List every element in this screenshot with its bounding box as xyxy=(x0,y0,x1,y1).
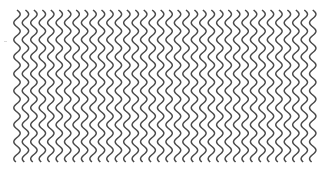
wavy-line xyxy=(124,10,130,162)
wavy-line xyxy=(56,10,62,162)
wavy-line xyxy=(191,10,197,162)
wavy-line xyxy=(242,10,248,162)
wavy-line xyxy=(132,10,138,162)
wavy-line xyxy=(31,10,37,162)
wavy-line xyxy=(234,10,240,162)
wavy-line xyxy=(293,10,299,162)
wavy-line xyxy=(81,10,87,162)
wavy-line xyxy=(166,10,172,162)
wavy-line xyxy=(73,10,79,162)
wavy-line xyxy=(183,10,189,162)
wavy-line xyxy=(267,10,273,162)
wavy-line xyxy=(174,10,180,162)
wavy-line xyxy=(301,10,307,162)
wavy-line xyxy=(65,10,71,162)
wavy-line xyxy=(276,10,282,162)
wavy-line xyxy=(208,10,214,162)
wavy-line xyxy=(284,10,290,162)
wavy-line xyxy=(157,10,163,162)
wavy-line xyxy=(39,10,45,162)
wavy-line xyxy=(141,10,147,162)
wavy-line xyxy=(200,10,206,162)
wavy-line xyxy=(115,10,121,162)
wavy-line xyxy=(90,10,96,162)
wavy-line xyxy=(225,10,231,162)
wavy-line xyxy=(149,10,155,162)
wavy-line xyxy=(14,10,20,162)
wavy-line xyxy=(259,10,265,162)
wavy-line xyxy=(310,10,316,162)
wavy-line xyxy=(48,10,54,162)
wavy-line xyxy=(107,10,113,162)
wavy-line xyxy=(250,10,256,162)
wavy-line xyxy=(22,10,28,162)
wavy-line xyxy=(98,10,104,162)
wavy-line xyxy=(217,10,223,162)
wavy-line-pattern xyxy=(0,0,335,173)
